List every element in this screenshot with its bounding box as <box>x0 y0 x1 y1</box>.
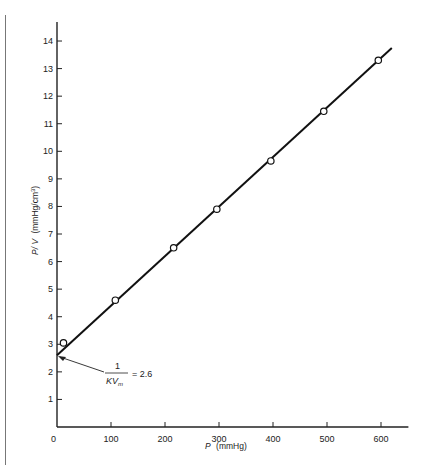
annotation-value: = 2.6 <box>132 369 152 379</box>
y-tick-label: 12 <box>43 91 53 101</box>
data-point <box>60 340 66 346</box>
x-tick-label: 500 <box>319 434 334 444</box>
y-tick-label: 5 <box>48 284 53 294</box>
y-tick-label: 11 <box>44 119 53 129</box>
annotation-denominator: KVm <box>106 376 123 387</box>
y-tick-label: 2 <box>48 367 53 377</box>
y-tick-label: 10 <box>43 146 53 156</box>
data-point <box>170 245 176 251</box>
axes <box>57 22 408 427</box>
y-tick-label: 14 <box>43 36 53 46</box>
y-tick-label: 8 <box>48 201 53 211</box>
data-point <box>214 206 220 212</box>
data-point <box>112 297 118 303</box>
y-tick-label: 4 <box>48 312 53 322</box>
annotation-arrow <box>60 357 104 372</box>
regression-line <box>57 48 392 355</box>
chart: 12345678910111213140100200300400500600 P… <box>0 0 431 474</box>
intercept-annotation: 1 KVm = 2.6 <box>58 356 152 387</box>
data-point <box>321 108 327 114</box>
y-tick-label: 6 <box>48 257 53 267</box>
y-tick-label: 9 <box>48 174 53 184</box>
y-axis-title: P/ V (mmHg/cm3) <box>30 186 40 255</box>
annotation-numerator: 1 <box>115 361 120 371</box>
data-point <box>375 57 381 63</box>
x-tick-label: 200 <box>157 434 172 444</box>
arrowhead-icon <box>58 356 66 361</box>
y-tick-label: 1 <box>48 394 53 404</box>
data-point <box>268 158 274 164</box>
x-tick-label: 100 <box>103 434 118 444</box>
y-tick-label: 13 <box>43 64 53 74</box>
x-axis-title: P (mmHg) <box>205 441 247 451</box>
y-tick-label: 3 <box>48 339 53 349</box>
y-tick-label: 7 <box>48 229 53 239</box>
fit-line <box>57 48 392 355</box>
x-tick-label: 400 <box>265 434 280 444</box>
x-tick-label: 600 <box>373 434 388 444</box>
x-tick-label: 0 <box>51 434 56 444</box>
